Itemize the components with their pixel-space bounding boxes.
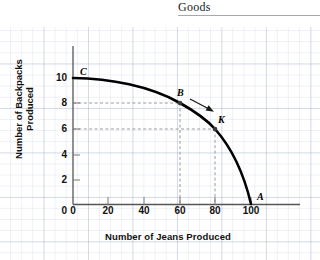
x-tick-label-20: 20 [94,205,122,216]
marker-point-b [178,101,183,106]
x-axis-ticks [108,197,251,205]
ppf-curve [73,78,251,204]
point-label-c: C [80,66,87,77]
guide-lines [73,103,215,204]
x-tick-label-60: 60 [166,205,194,216]
y-tick-label-10: 10 [45,72,67,83]
point-label-k: K [218,114,225,125]
y-axis-title: Number of Backpacks Produced [13,44,35,174]
y-tick-label-2: 2 [45,174,67,185]
x-tick-label-40: 40 [130,205,158,216]
y-tick-label-4: 4 [45,149,67,160]
y-axis-ticks [73,78,80,180]
point-label-b: B [177,87,184,98]
arrow-head [206,105,214,112]
x-tick-label-0: 0 [59,205,87,216]
x-tick-label-80: 80 [201,205,229,216]
axes [73,46,300,205]
y-tick-label-8: 8 [45,97,67,108]
marker-point-k [213,127,218,132]
y-tick-label-6: 6 [45,123,67,134]
chart-screenshot: Goods [0,0,320,260]
x-tick-label-100: 100 [237,205,265,216]
x-axis-title: Number of Jeans Produced [73,231,263,242]
point-label-a: A [257,191,264,202]
